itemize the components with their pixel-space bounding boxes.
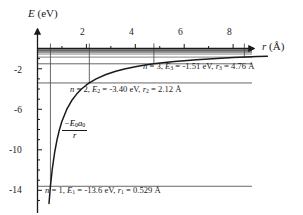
y-axis-symbol: E	[28, 7, 35, 19]
x-axis-ticks	[62, 44, 233, 49]
curve-formula-label: −E0a0 r	[62, 119, 87, 141]
formula-numerator: −E0a0	[62, 119, 87, 131]
x-tick-label-4: 4	[129, 28, 134, 38]
x-tick-label-8: 8	[227, 28, 232, 38]
n1-r-value: 0.529 Å	[133, 185, 161, 195]
y-tick-label-minus14: -14	[9, 186, 22, 196]
plot-canvas	[0, 0, 303, 215]
n3-e-value: -1.51 eV	[182, 61, 211, 71]
y-tick-label-minus2: -2	[14, 66, 22, 76]
annotation-n3: n = 3, E3 = -1.51 eV, r3 = 4.76 Å	[143, 62, 254, 72]
n2-e-value: -3.40 eV	[109, 84, 138, 94]
formula-E0: E0	[70, 118, 78, 128]
y-tick-label-minus10: -10	[9, 146, 22, 156]
y-tick-label-minus6: -6	[14, 106, 22, 116]
annotation-n1: n = 1, E1 = -13.6 eV, r1 = 0.529 Å	[45, 186, 161, 196]
n3-r-value: 4.76 Å	[231, 61, 254, 71]
formula-a0: a0	[78, 118, 85, 128]
annotation-n2: n = 2, E2 = -3.40 eV, r2 = 2.12 Å	[70, 85, 181, 95]
x-tick-label-2: 2	[80, 28, 85, 38]
formula-denominator: r	[62, 131, 87, 141]
x-axis-title: r (Å)	[262, 41, 284, 52]
y-axis-unit: (eV)	[37, 7, 57, 19]
physics-energy-diagram: E (eV) r (Å) 2 4 6 8 -2 -6 -10 -14 n = 3…	[0, 0, 303, 215]
x-tick-label-6: 6	[178, 28, 183, 38]
y-axis-ticks	[38, 59, 43, 201]
y-axis-title: E (eV)	[28, 8, 58, 19]
n1-e-value: -13.6 eV	[84, 185, 113, 195]
n2-r-value: 2.12 Å	[158, 84, 181, 94]
x-axis-unit: (Å)	[269, 40, 284, 52]
